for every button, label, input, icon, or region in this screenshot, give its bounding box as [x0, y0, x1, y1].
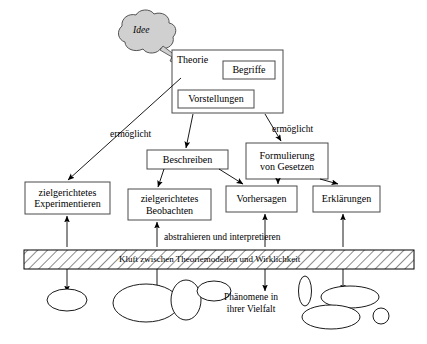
- arrow-beschreiben-vorhersagen: [219, 169, 243, 184]
- kluft-band-label: Kluft zwischen Theoriemodellen und Wirkl…: [119, 254, 300, 266]
- beobachten-box-rect: [128, 189, 211, 220]
- idee-label: Idee: [133, 25, 149, 37]
- vorstellungen-box-rect: [178, 90, 254, 108]
- formulierung-box-rect: [246, 143, 328, 179]
- arrow-formulierung-erklaerungen: [320, 179, 338, 184]
- diagram-vector-layer: [0, 0, 427, 344]
- diagram-canvas: Idee Theorie Begriffe Vorstellungen Besc…: [0, 0, 427, 344]
- ermoeglicht-right-label: ermöglicht: [272, 124, 313, 136]
- box-outlines: [25, 50, 380, 220]
- begriffe-box-rect: [223, 61, 275, 79]
- arrow-beschreiben-beobachten: [158, 169, 164, 187]
- phenomenon-ellipse: [47, 289, 87, 311]
- phaenomene-label: Phänomene in ihrer Vielfalt: [224, 292, 278, 315]
- phenomena-ellipses: [47, 276, 389, 329]
- abstrahieren-label: abstrahieren und interpretieren: [164, 232, 281, 244]
- beschreiben-box-rect: [147, 150, 228, 169]
- arrow-theorie-beschreiben: [186, 114, 193, 148]
- vorhersagen-box-rect: [226, 186, 297, 212]
- phenomenon-ellipse: [302, 305, 360, 329]
- phenomenon-ellipse: [171, 280, 201, 320]
- phenomenon-ellipse: [299, 276, 312, 306]
- experimentieren-box-rect: [25, 182, 110, 214]
- erklaerungen-box-rect: [313, 186, 380, 212]
- phenomenon-ellipse: [373, 308, 389, 324]
- ermoeglicht-left-label: ermöglicht: [110, 129, 151, 141]
- phenomenon-ellipse: [113, 284, 179, 322]
